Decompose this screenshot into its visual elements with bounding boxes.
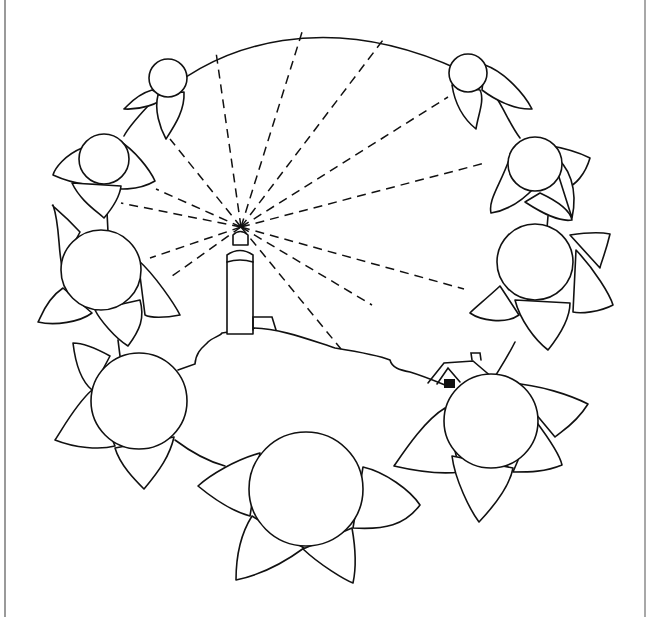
light-ray	[241, 227, 464, 289]
flower-petal	[72, 183, 121, 218]
flower-right-lower	[394, 374, 588, 522]
light-ray	[241, 227, 372, 305]
lighthouse-lamp	[233, 232, 248, 246]
flower-center	[444, 374, 538, 468]
light-ray	[121, 203, 241, 227]
flower-center	[249, 432, 363, 546]
wreath-stem	[118, 340, 120, 356]
wreath-stem	[175, 440, 225, 466]
flower-petal	[138, 260, 180, 317]
flower-petal	[515, 300, 570, 350]
flower-center	[449, 54, 487, 92]
flower-left-upper	[53, 134, 155, 218]
flower-left-lower	[55, 343, 187, 489]
wreath-stem	[124, 106, 148, 136]
flower-bottom-center	[198, 432, 420, 583]
light-ray	[241, 29, 303, 227]
light-ray	[241, 163, 485, 227]
flower-left-middle	[38, 205, 180, 346]
cottage-window	[444, 379, 455, 388]
flower-petal	[157, 92, 184, 139]
flower-right-upper	[491, 137, 590, 220]
flower-center	[79, 134, 129, 184]
lighthouse	[227, 232, 276, 335]
light-ray	[241, 97, 448, 227]
wreath-arc	[152, 38, 460, 104]
hill-outline	[178, 328, 445, 385]
lighthouse-tower	[227, 251, 253, 335]
light-ray	[150, 227, 241, 258]
flower-center	[61, 230, 141, 310]
flowers	[38, 54, 613, 583]
light-ray	[241, 227, 341, 349]
flower-center	[508, 137, 562, 191]
flower-petal	[482, 65, 532, 109]
light-ray	[156, 189, 241, 227]
light-ray	[241, 40, 383, 227]
flower-center	[91, 353, 187, 449]
cottage-chimney	[471, 353, 481, 360]
flower-right-middle	[470, 224, 613, 350]
flower-top-right-small	[449, 54, 532, 129]
hill	[178, 328, 445, 385]
coloring-page	[0, 0, 650, 617]
lighthouse-wreath-illustration	[0, 0, 650, 617]
flower-top-left-small	[124, 59, 187, 139]
flower-center	[149, 59, 187, 97]
flower-center	[497, 224, 573, 300]
